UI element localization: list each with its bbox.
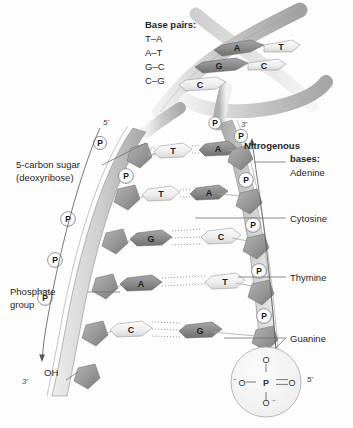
- helix-base-right: C: [261, 61, 268, 71]
- rung-base-right: A: [215, 144, 222, 154]
- sugar-pentagon: [74, 364, 100, 389]
- phosphate-letter: P: [243, 175, 249, 185]
- phosphate-detail-inset: P O O − O O −: [231, 347, 301, 417]
- phosphate-circle: P: [119, 169, 134, 184]
- phosphate-detail-top: O: [262, 355, 269, 365]
- hydrogen-bonds: [152, 322, 180, 337]
- sugar-pentagon: [92, 274, 118, 299]
- label-thymine: Thymine: [290, 272, 326, 284]
- strand-end-top-left: 5': [103, 118, 109, 127]
- label-phosphate-line2: group: [10, 299, 34, 311]
- sugar-pentagon: [102, 229, 128, 254]
- label-sugar-line1: 5-carbon sugar: [16, 159, 80, 171]
- label-hydroxyl: OH: [44, 367, 58, 379]
- phosphate-letter: P: [250, 220, 256, 230]
- dna-structure-diagram: A T G C C: [0, 0, 353, 428]
- phosphate-detail-left: O: [238, 378, 245, 388]
- phosphate-letter: P: [123, 171, 129, 181]
- helix-base-left: A: [234, 43, 241, 53]
- phosphate-circle: P: [257, 309, 272, 324]
- phosphate-letter: P: [261, 311, 267, 321]
- sugar-pentagon: [114, 185, 140, 210]
- label-phosphate-line1: Phosphate: [10, 286, 55, 298]
- rung-base-left: G: [147, 234, 154, 244]
- base-pair-item-2: G–C: [145, 61, 165, 73]
- rung-base-left: A: [138, 279, 145, 289]
- phosphate-letter: P: [212, 118, 218, 128]
- base-pair-item-0: T–A: [145, 33, 162, 45]
- hydrogen-bonds: [172, 229, 202, 245]
- phosphate-circle: P: [246, 218, 261, 233]
- rung-base-left: T: [158, 189, 164, 199]
- base-pair-item-3: C–G: [145, 75, 165, 87]
- phosphate-circle: P: [252, 264, 267, 279]
- rung-base-right: A: [206, 188, 213, 198]
- base-pair-item-1: A–T: [145, 47, 162, 59]
- helix-base-left: C: [197, 80, 204, 90]
- ladder-rung: T A: [148, 141, 240, 158]
- phosphate-letter: P: [97, 138, 103, 148]
- strand-end-bottom-right: 5': [307, 375, 313, 384]
- phosphate-detail-bottom: O: [262, 398, 269, 408]
- label-guanine: Guanine: [290, 333, 326, 345]
- phosphate-circle: P: [209, 117, 221, 129]
- phosphate-circle: P: [239, 173, 254, 188]
- label-sugar-line2: (deoxyribose): [16, 172, 74, 184]
- label-nitrogenous-line2: bases:: [244, 153, 320, 165]
- ladder-rung: T A: [138, 185, 242, 201]
- phosphate-detail-bottom-charge: −: [272, 397, 276, 403]
- phosphate-detail-center: P: [263, 378, 269, 388]
- rung-base-left: T: [170, 146, 176, 156]
- rung-base-right: T: [222, 277, 228, 287]
- hydrogen-bonds: [180, 189, 191, 197]
- sugar-pentagon: [82, 321, 108, 346]
- rung-base-right: G: [196, 326, 203, 336]
- phosphate-detail-left-charge: −: [233, 376, 237, 382]
- rung-base-left: C: [128, 325, 135, 335]
- label-nitrogenous-line1: Nitrogenous: [244, 140, 300, 152]
- ladder-rung: A T: [116, 273, 252, 291]
- helix-base-left: G: [215, 61, 222, 71]
- ladder-rung: C G: [106, 321, 256, 338]
- phosphate-letter: P: [52, 255, 58, 265]
- hydrogen-bonds: [192, 145, 200, 153]
- base-pairs-legend-title: Base pairs:: [145, 19, 196, 31]
- helix-base-right: T: [278, 42, 284, 52]
- strand-end-top-right: 3': [241, 120, 247, 129]
- strand-end-bottom-left: 3': [22, 377, 28, 386]
- label-adenine: Adenine: [290, 167, 325, 179]
- rung-base-right: C: [218, 232, 225, 242]
- phosphate-letter: P: [256, 266, 262, 276]
- hydrogen-bonds: [162, 276, 206, 286]
- label-cytosine: Cytosine: [290, 213, 327, 225]
- ladder-rung: G C: [126, 228, 248, 246]
- phosphate-detail-right: O: [288, 378, 295, 388]
